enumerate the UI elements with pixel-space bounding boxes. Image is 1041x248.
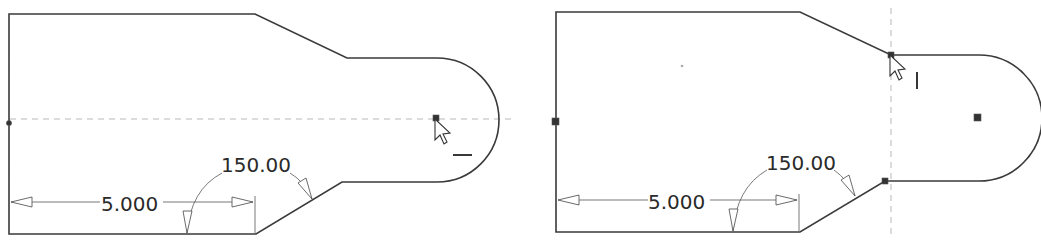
sketch-profile[interactable] bbox=[9, 14, 499, 234]
sketch-profile[interactable] bbox=[556, 12, 1041, 232]
linear-dimension-value[interactable]: 5.000 bbox=[648, 190, 705, 214]
linear-dimension[interactable]: 5.000 bbox=[558, 190, 799, 232]
angle-arc-left bbox=[733, 170, 767, 232]
mouse-cursor-icon bbox=[890, 55, 905, 80]
stray-dot bbox=[681, 65, 684, 68]
linear-dimension-value[interactable]: 5.000 bbox=[101, 192, 158, 216]
angular-dimension-value[interactable]: 150.00 bbox=[221, 153, 291, 177]
sketch-canvas-left[interactable]: 5.000 150.00 bbox=[0, 0, 520, 248]
mouse-cursor-icon bbox=[435, 119, 450, 144]
angular-dimension[interactable]: 150.00 bbox=[729, 151, 855, 232]
dimension-arrow-right bbox=[232, 197, 253, 207]
angular-dimension-value[interactable]: 150.00 bbox=[766, 151, 836, 175]
sketch-panel-left[interactable]: 5.000 150.00 bbox=[0, 0, 520, 248]
arc-center-point[interactable] bbox=[974, 114, 981, 121]
chamfer-endpoint-marker[interactable] bbox=[882, 178, 888, 184]
midpoint-marker[interactable] bbox=[6, 120, 11, 125]
angular-dimension[interactable]: 150.00 bbox=[183, 153, 312, 234]
dimension-arrow-left bbox=[558, 195, 579, 205]
dimension-arrow-right bbox=[776, 195, 797, 205]
angle-arrow-left bbox=[183, 211, 192, 233]
angle-arrow-left bbox=[729, 209, 738, 231]
midpoint-marker[interactable] bbox=[552, 118, 559, 125]
sketch-canvas-right[interactable]: 5.000 150.00 bbox=[520, 0, 1041, 248]
dimension-arrow-left bbox=[11, 197, 32, 207]
sketch-panel-right[interactable]: 5.000 150.00 bbox=[520, 0, 1041, 248]
angle-arc-left bbox=[187, 173, 222, 234]
linear-dimension[interactable]: 5.000 bbox=[11, 192, 255, 234]
